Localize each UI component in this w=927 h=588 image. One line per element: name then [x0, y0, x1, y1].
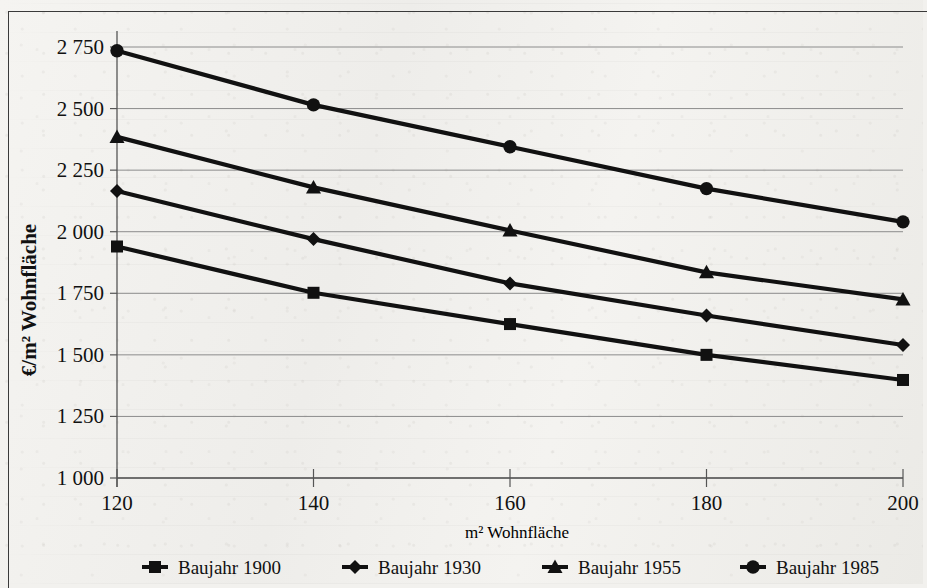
chart-legend: Baujahr 1900Baujahr 1930Baujahr 1955Bauj… — [142, 557, 879, 578]
x-tick-label: 120 — [101, 491, 133, 515]
y-tick-label: 1 750 — [57, 281, 104, 305]
y-tick-label: 2 500 — [57, 97, 104, 121]
marker-diamond — [110, 184, 124, 198]
marker-circle — [503, 140, 516, 153]
legend-item[interactable]: Baujahr 1955 — [542, 557, 681, 578]
marker-square — [701, 349, 713, 361]
x-axis-title: m² Wohnfläche — [465, 523, 569, 542]
y-tick-label: 2 000 — [57, 220, 104, 244]
series-line — [117, 246, 903, 379]
series-line — [117, 51, 903, 222]
marker-diamond — [307, 232, 321, 246]
x-tick-label: 140 — [298, 491, 330, 515]
marker-diamond — [896, 338, 910, 352]
marker-circle — [307, 98, 320, 111]
y-tick-group: 1 0001 2501 5001 7502 0002 2502 5002 750 — [57, 35, 104, 490]
gridline-group — [110, 47, 903, 478]
legend-label: Baujahr 1900 — [178, 557, 281, 578]
y-tick-label: 1 250 — [57, 404, 104, 428]
legend-label: Baujahr 1955 — [578, 557, 681, 578]
legend-item[interactable]: Baujahr 1900 — [142, 557, 281, 578]
marker-square — [111, 240, 123, 252]
marker-diamond — [700, 308, 714, 322]
marker-square — [504, 318, 516, 330]
axis-lines — [117, 31, 903, 487]
legend-label: Baujahr 1930 — [378, 557, 481, 578]
marker-square — [308, 287, 320, 299]
marker-circle — [896, 215, 909, 228]
marker-diamond — [503, 276, 517, 290]
legend-label: Baujahr 1985 — [776, 557, 879, 578]
marker-square — [149, 561, 161, 573]
legend-item[interactable]: Baujahr 1985 — [740, 557, 879, 578]
x-tick-group: 120140160180200 — [101, 469, 919, 515]
marker-diamond — [348, 560, 362, 574]
legend-item[interactable]: Baujahr 1930 — [342, 557, 481, 578]
x-tick-label: 200 — [887, 491, 919, 515]
y-tick-label: 2 250 — [57, 158, 104, 182]
y-tick-label: 2 750 — [57, 35, 104, 59]
marker-circle — [700, 182, 713, 195]
y-tick-label: 1 500 — [57, 343, 104, 367]
y-tick-label: 1 000 — [57, 466, 104, 490]
x-tick-label: 160 — [494, 491, 526, 515]
marker-square — [897, 374, 909, 386]
series-group — [110, 44, 911, 386]
y-axis-title: €/m² Wohnfläche — [17, 224, 41, 376]
x-tick-label: 180 — [691, 491, 723, 515]
marker-circle — [110, 44, 123, 57]
marker-circle — [746, 560, 759, 573]
